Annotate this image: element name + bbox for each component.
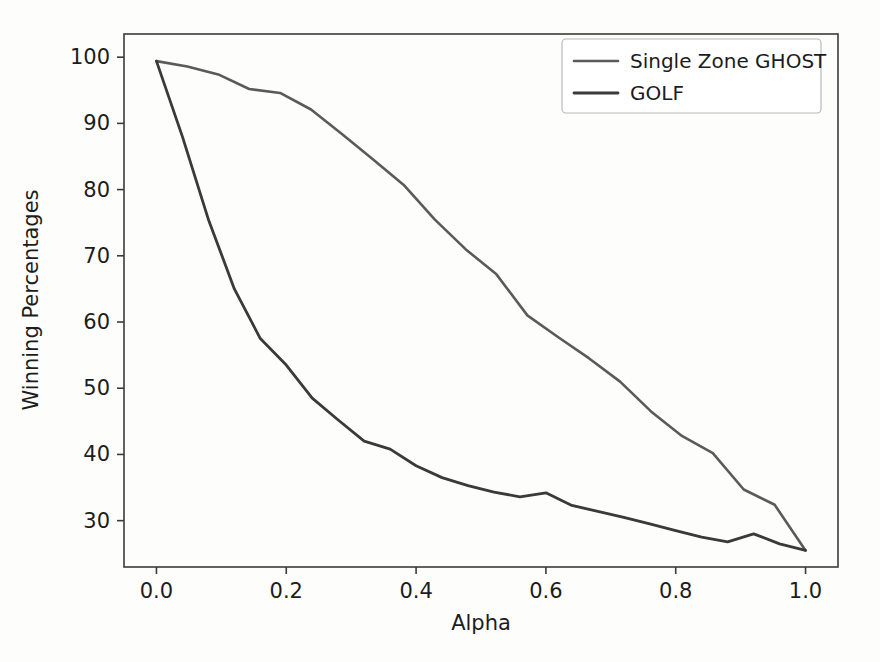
x-tick-label: 0.2 xyxy=(270,579,303,603)
y-axis-title: Winning Percentages xyxy=(19,190,43,411)
x-axis-ticks: 0.00.20.40.60.81.0 xyxy=(140,567,822,603)
y-tick-label: 50 xyxy=(83,376,110,400)
x-tick-label: 0.6 xyxy=(529,579,562,603)
series-line-golf xyxy=(156,61,805,550)
legend-label-single-zone-ghost: Single Zone GHOST xyxy=(630,49,827,73)
series-line-single-zone-ghost xyxy=(156,61,805,550)
chart-figure: 0.00.20.40.60.81.0 30405060708090100 Alp… xyxy=(0,0,880,662)
y-tick-label: 70 xyxy=(83,244,110,268)
y-tick-label: 40 xyxy=(83,442,110,466)
y-tick-label: 80 xyxy=(83,178,110,202)
y-tick-label: 60 xyxy=(83,310,110,334)
y-axis-ticks: 30405060708090100 xyxy=(70,45,124,532)
chart-legend: Single Zone GHOST GOLF xyxy=(562,39,827,113)
legend-label-golf: GOLF xyxy=(630,81,684,105)
y-tick-label: 100 xyxy=(70,45,110,69)
series-group xyxy=(156,61,805,550)
x-tick-label: 0.8 xyxy=(659,579,692,603)
x-tick-label: 0.0 xyxy=(140,579,173,603)
y-tick-label: 30 xyxy=(83,509,110,533)
x-axis-title: Alpha xyxy=(451,611,511,635)
y-tick-label: 90 xyxy=(83,111,110,135)
line-chart: 0.00.20.40.60.81.0 30405060708090100 Alp… xyxy=(0,0,880,662)
axes-frame xyxy=(124,34,838,567)
x-tick-label: 0.4 xyxy=(399,579,432,603)
x-tick-label: 1.0 xyxy=(789,579,822,603)
